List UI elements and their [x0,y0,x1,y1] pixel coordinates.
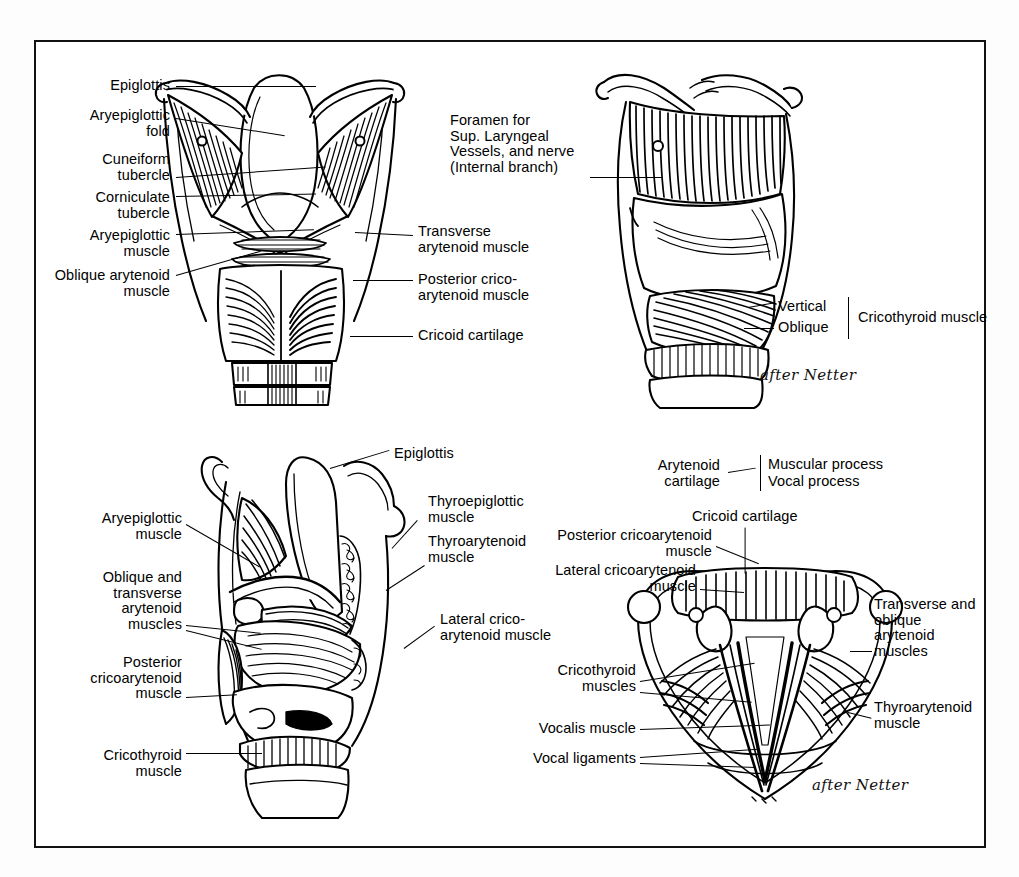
label-muscular-process: Muscular process [768,457,928,473]
label-vocal-ligaments: Vocal ligaments [494,751,636,767]
label-arytenoid-cartilage: Arytenoid cartilage [620,458,720,489]
leader-transverse-oblique-arytenoid [850,651,872,652]
attribution-lateral-view: after Netter [760,366,856,384]
label-thyroepiglottic-muscle: Thyroepiglottic muscle [428,494,588,525]
label-posterior-cricoarytenoid-muscle: Posterior crico- arytenoid muscle [418,272,618,303]
label-cricothyroid-muscle-lateral: Cricothyroid muscle [858,310,1018,326]
label-oblique: Oblique [778,320,858,336]
label-lateral-cricoarytenoid-muscle-sagittal: Lateral crico- arytenoid muscle [440,612,600,643]
label-transverse-arytenoid-muscle: Transverse arytenoid muscle [418,224,608,255]
label-foramen-superior-laryngeal: Foramen for Sup. Laryngeal Vessels, and … [450,113,650,175]
leader-epiglottis-posterior [176,86,316,87]
leader-foramen-superior-laryngeal [590,177,662,178]
label-transverse-oblique-arytenoid-muscles: Transverse and oblique arytenoid muscles [874,597,1019,659]
brace-arytenoid-processes [760,455,761,491]
leader-oblique [744,328,774,329]
label-posterior-cricoarytenoid-muscle-sagittal: Posterior cricoarytenoid muscle [40,655,182,702]
label-cricoid-cartilage-superior: Cricoid cartilage [692,509,852,525]
figure-page: Epiglottis Aryepiglottic fold Cuneiform … [0,0,1019,877]
label-oblique-transverse-arytenoid-muscles: Oblique and transverse arytenoid muscles [40,570,182,632]
leader-cricoid-cartilage-posterior [350,336,413,337]
attribution-superior-view: after Netter [812,776,908,794]
leader-cricoid-cartilage-superior [744,528,745,574]
label-thyroarytenoid-muscle-superior: Thyroarytenoid muscle [874,700,1019,731]
label-cricoid-cartilage-posterior: Cricoid cartilage [418,328,608,344]
label-aryepiglottic-fold: Aryepiglottic fold [20,108,170,139]
lateral-larynx-artwork [590,58,820,408]
label-posterior-cricoarytenoid-muscle-superior: Posterior cricoarytenoid muscle [524,528,712,559]
leader-cricothyroid-muscle-sagittal [186,753,262,754]
label-oblique-arytenoid-muscle: Oblique arytenoid muscle [10,268,170,299]
label-cricothyroid-muscle-sagittal: Cricothyroid muscle [40,748,182,779]
label-epiglottis-sagittal: Epiglottis [394,446,534,462]
label-vocalis-muscle: Vocalis muscle [494,721,636,737]
label-cricothyroid-muscles-superior: Cricothyroid muscles [500,663,636,694]
label-vocal-process: Vocal process [768,474,928,490]
label-corniculate-tubercle: Corniculate tubercle [20,190,170,221]
leader-posterior-cricoarytenoid-muscle [353,280,413,281]
label-cuneiform-tubercle: Cuneiform tubercle [20,152,170,183]
brace-cricothyroid-muscle [848,297,849,339]
label-aryepiglottic-muscle: Aryepiglottic muscle [20,228,170,259]
figure-lateral-view [590,58,820,408]
label-aryepiglottic-muscle-sagittal: Aryepiglottic muscle [50,511,182,542]
label-lateral-cricoarytenoid-muscle-superior: Lateral cricoarytenoid muscle [506,563,696,594]
label-epiglottis-posterior: Epiglottis [20,78,170,94]
label-vertical: Vertical [778,299,858,315]
